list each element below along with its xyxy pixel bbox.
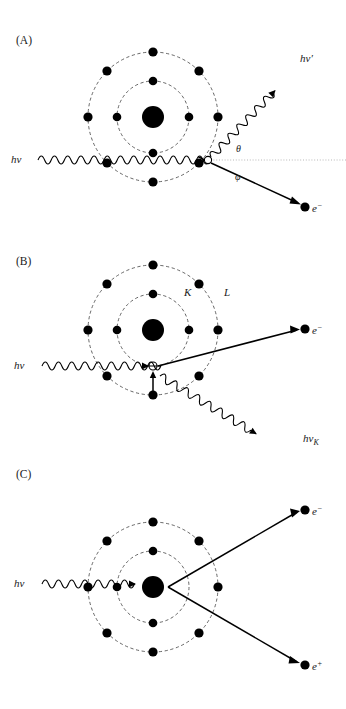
panel-b-label: (B) bbox=[16, 255, 32, 268]
electron-outer-a bbox=[148, 177, 157, 186]
incident-photon-label-b: hν bbox=[14, 359, 25, 371]
recoil-electron-dot-a bbox=[300, 202, 309, 211]
incident-photon-label-c: hν bbox=[14, 577, 25, 589]
electron-outer-a bbox=[194, 66, 203, 75]
photoelectron-ray-b bbox=[158, 330, 297, 366]
electron-outer-a bbox=[213, 112, 222, 121]
photoelectron-label-b: e− bbox=[312, 323, 322, 336]
electron-dot-c bbox=[300, 505, 309, 514]
electron-inner-a bbox=[149, 149, 158, 158]
phi-label-a: φ bbox=[235, 171, 241, 182]
recoil-electron-ray-a bbox=[211, 163, 298, 203]
characteristic-xray-wave-b bbox=[158, 373, 258, 438]
electron-inner-a bbox=[149, 77, 158, 86]
electron-outer-b bbox=[194, 371, 203, 380]
struck-electron-a bbox=[204, 156, 211, 163]
incident-photon-label-a: hν bbox=[11, 153, 22, 165]
electron-inner-b bbox=[185, 326, 194, 335]
characteristic-xray-label-b: hνK bbox=[303, 432, 319, 447]
electron-outer-b bbox=[102, 279, 111, 288]
electron-outer-c bbox=[194, 628, 203, 637]
electron-inner-b bbox=[149, 290, 158, 299]
electron-inner-c bbox=[149, 619, 158, 628]
theta-label-a: θ bbox=[236, 143, 241, 154]
l-shell-label-b: L bbox=[223, 286, 230, 298]
electron-outer-c bbox=[148, 647, 157, 656]
electron-arrowhead-c bbox=[290, 509, 300, 518]
positron-label-c: e+ bbox=[312, 659, 322, 672]
electron-outer-b bbox=[83, 325, 92, 334]
panel-a-label: (A) bbox=[16, 34, 32, 47]
electron-outer-c bbox=[148, 517, 157, 526]
electron-outer-b bbox=[148, 260, 157, 269]
electron-outer-c bbox=[213, 582, 222, 591]
electron-inner-b bbox=[113, 326, 122, 335]
panel-b: (B) K L hν e− bbox=[14, 255, 322, 447]
scattered-photon-label-a: hν′ bbox=[300, 52, 313, 64]
incident-photon-arrowhead-c bbox=[129, 581, 136, 588]
nucleus-a bbox=[142, 106, 164, 128]
incident-photon-arrowhead-b bbox=[142, 363, 149, 370]
recoil-electron-arrowhead-a bbox=[290, 197, 302, 205]
electron-outer-c bbox=[102, 536, 111, 545]
photon-interaction-figure: (A) hν hν′ bbox=[0, 0, 346, 709]
k-shell-label-b: K bbox=[183, 286, 192, 298]
shell-transition-arrowhead-b bbox=[150, 371, 156, 378]
electron-outer-a bbox=[148, 47, 157, 56]
electron-outer-c bbox=[194, 536, 203, 545]
electron-outer-b bbox=[213, 325, 222, 334]
photoelectron-dot-b bbox=[300, 324, 309, 333]
electron-outer-a bbox=[102, 66, 111, 75]
positron-ray-c bbox=[168, 587, 297, 662]
nucleus-c bbox=[142, 576, 164, 598]
positron-arrowhead-c bbox=[289, 656, 301, 664]
characteristic-xray-arrowhead-b bbox=[249, 428, 259, 437]
electron-ray-c bbox=[168, 512, 297, 587]
scattered-photon-arrowhead-a bbox=[268, 88, 278, 98]
electron-inner-a bbox=[113, 113, 122, 122]
electron-outer-a bbox=[83, 112, 92, 121]
scattered-photon-wave-a bbox=[208, 88, 277, 159]
scattered-photon-group-a bbox=[208, 87, 278, 159]
panel-c-label: (C) bbox=[16, 468, 32, 481]
nucleus-b bbox=[142, 319, 164, 341]
incident-photon-wave-a bbox=[38, 156, 210, 164]
positron-dot-c bbox=[300, 660, 309, 669]
electron-outer-b bbox=[194, 279, 203, 288]
electron-label-c: e− bbox=[312, 504, 322, 517]
electron-outer-c bbox=[102, 628, 111, 637]
photoelectron-arrowhead-b bbox=[290, 326, 300, 334]
panel-a: (A) hν hν′ bbox=[11, 34, 346, 214]
characteristic-xray-group-b bbox=[158, 373, 259, 438]
panel-c: (C) hν e− e+ bbox=[14, 468, 322, 672]
electron-inner-a bbox=[185, 113, 194, 122]
recoil-electron-label-a: e− bbox=[312, 201, 322, 214]
electron-outer-b bbox=[102, 371, 111, 380]
electron-inner-c bbox=[149, 547, 158, 556]
